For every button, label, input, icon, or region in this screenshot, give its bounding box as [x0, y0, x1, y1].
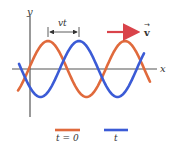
x-axis-label: x	[160, 63, 166, 74]
legend-label-t0: t = 0	[56, 133, 79, 143]
wave-diagram: x y vt v → t = 0 t	[0, 0, 174, 151]
y-axis-label: y	[26, 6, 33, 17]
legend-label-t: t	[114, 133, 118, 143]
vector-arrow-mark: →	[144, 21, 150, 29]
vt-label: vt	[58, 18, 67, 28]
